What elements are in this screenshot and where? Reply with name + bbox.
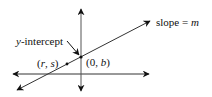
y-intercept-label: y-intercept (15, 35, 63, 47)
point-0b-dot (79, 55, 82, 58)
point-0b-label: (0, b) (86, 56, 110, 69)
point-rs-label: (r, s) (37, 57, 59, 70)
slope-label: slope = m (156, 16, 199, 28)
line-diagram: slope = m y-intercept (r, s) (0, b) (0, 0, 212, 97)
sloped-line (17, 21, 150, 90)
y-intercept-arrow (67, 41, 79, 55)
point-rs-dot (66, 63, 69, 66)
